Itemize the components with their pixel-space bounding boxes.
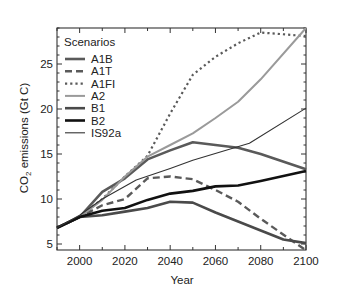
x-tick-label: 2100	[293, 255, 319, 267]
x-tick-label: 2000	[67, 255, 93, 267]
series-line-b1	[57, 202, 306, 243]
legend: Scenarios A1BA1TA1FIA2B1B2IS92a	[64, 36, 122, 139]
legend-label-a1b: A1B	[91, 53, 113, 65]
legend-label-a2: A2	[91, 90, 105, 102]
y-tick-label: 5	[47, 238, 53, 250]
x-tick-label: 2040	[157, 255, 183, 267]
legend-label-b1: B1	[91, 102, 105, 114]
legend-label-is92a: IS92a	[91, 127, 122, 139]
legend-label-a1t: A1T	[91, 65, 112, 77]
y-axis-label: CO2 emissions (Gt C)	[18, 83, 33, 194]
co2-emissions-chart: 200020202040206020802100510152025 Scenar…	[0, 0, 337, 299]
x-tick-label: 2080	[248, 255, 274, 267]
y-tick-label: 25	[40, 58, 53, 70]
legend-label-b2: B2	[91, 115, 105, 127]
x-tick-label: 2020	[112, 255, 138, 267]
y-tick-label: 10	[40, 193, 53, 205]
x-axis-label: Year	[170, 274, 193, 286]
legend-label-a1fi: A1FI	[91, 78, 115, 90]
y-tick-label: 15	[40, 148, 53, 160]
x-tick-label: 2060	[203, 255, 229, 267]
y-tick-label: 20	[40, 103, 53, 115]
legend-title: Scenarios	[64, 36, 115, 48]
